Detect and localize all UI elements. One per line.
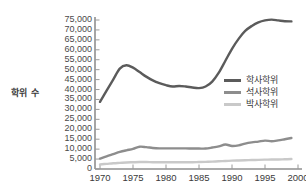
legend-swatch-icon <box>224 91 241 94</box>
x-tick-label: 1975 <box>118 172 148 183</box>
series-line-3 <box>100 159 291 164</box>
chart-legend: 학사학위석사학위박사학위 <box>224 74 304 110</box>
x-tick-label: 1980 <box>151 172 181 183</box>
legend-label: 학사학위 <box>246 75 278 85</box>
x-tick-label: 1990 <box>217 172 247 183</box>
x-tick-label: 1985 <box>184 172 214 183</box>
legend-swatch-icon <box>224 103 241 106</box>
legend-label: 석사학위 <box>246 87 278 97</box>
legend-swatch-icon <box>224 79 241 82</box>
x-tick-label: 1970 <box>85 172 115 183</box>
x-tick-label: 2000 <box>283 172 306 183</box>
x-axis-tick-labels: 1970197519801985199019952000 <box>0 172 306 186</box>
legend-item: 학사학위 <box>224 74 304 86</box>
legend-item: 석사학위 <box>224 86 304 98</box>
legend-item: 박사학위 <box>224 98 304 110</box>
series-line-2 <box>100 138 291 159</box>
legend-label: 박사학위 <box>246 99 278 109</box>
line-chart: 학위 수 05,00010,00015,00020,00025,00030,00… <box>0 0 306 195</box>
x-tick-label: 1995 <box>250 172 280 183</box>
